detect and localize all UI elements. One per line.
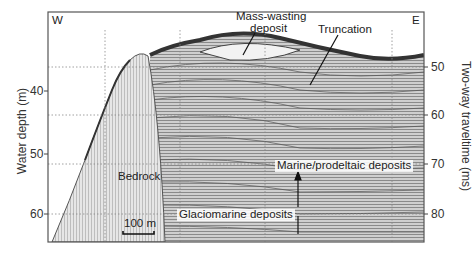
- left-tick-60: 60: [30, 208, 43, 220]
- right-tick-50: 50: [431, 61, 444, 73]
- right-axis-title: Two-way traveltime (ms): [460, 56, 472, 196]
- mass-wasting-label-line1: Mass-wasting: [236, 11, 306, 23]
- right-tick-60: 60: [431, 109, 444, 121]
- right-tick-80: 80: [431, 208, 444, 220]
- mass-wasting-label-line2: deposit: [250, 23, 287, 35]
- left-tick-50: 50: [30, 148, 43, 160]
- left-axis-title: Water depth (m): [16, 81, 28, 181]
- left-tick-40: 40: [30, 85, 43, 97]
- right-tick-70: 70: [431, 158, 444, 170]
- west-label: W: [52, 15, 63, 27]
- scale-bar-label: 100 m: [124, 218, 156, 230]
- bedrock-label: Bedrock: [118, 171, 160, 183]
- truncation-label: Truncation: [318, 24, 372, 36]
- glaciomarine-deposits-label: Glaciomarine deposits: [177, 209, 295, 221]
- east-label: E: [412, 15, 420, 27]
- marine-deposits-label: Marine/prodeltaic deposits: [275, 160, 413, 172]
